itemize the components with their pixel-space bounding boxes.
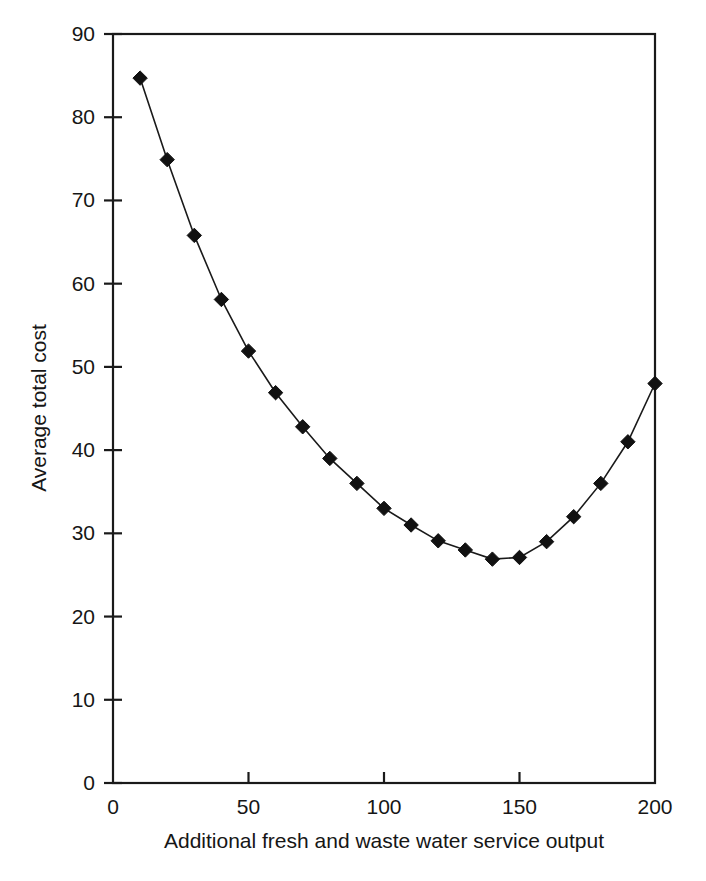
- chart-figure: 0102030405060708090 050100150200 Additio…: [0, 0, 706, 881]
- x-tick-label: 50: [237, 795, 260, 818]
- x-tick-label: 200: [637, 795, 672, 818]
- y-tick-label: 80: [72, 105, 95, 128]
- y-tick-label: 90: [72, 22, 95, 45]
- y-tick-label: 10: [72, 688, 95, 711]
- x-axis-title: Additional fresh and waste water service…: [164, 829, 604, 852]
- y-tick-label: 60: [72, 272, 95, 295]
- y-tick-label: 40: [72, 438, 95, 461]
- y-tick-label: 50: [72, 355, 95, 378]
- y-tick-label: 30: [72, 521, 95, 544]
- x-tick-label: 150: [502, 795, 537, 818]
- y-tick-label: 20: [72, 605, 95, 628]
- x-tick-label: 0: [107, 795, 119, 818]
- x-tick-label: 100: [366, 795, 401, 818]
- y-axis-title: Average total cost: [27, 324, 50, 492]
- chart-background: [0, 0, 706, 881]
- y-tick-label: 0: [83, 771, 95, 794]
- y-tick-label: 70: [72, 188, 95, 211]
- average-total-cost-chart: 0102030405060708090 050100150200 Additio…: [0, 0, 706, 881]
